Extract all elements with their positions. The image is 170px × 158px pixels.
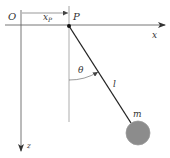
xp-label-sub: P: [47, 16, 53, 23]
z-axis-label: z: [26, 142, 31, 150]
pivot-label: P: [72, 11, 80, 22]
theta-arc: [69, 72, 98, 80]
mass-label: m: [133, 109, 142, 119]
length-label: l: [113, 79, 116, 89]
x-axis-label: x: [152, 30, 157, 40]
xp-label: xP: [43, 12, 53, 23]
origin-label: O: [8, 11, 16, 22]
pendulum-diagram: O xP P x z θ l m: [0, 0, 170, 158]
angle-label: θ: [78, 65, 84, 75]
pivot-point: [67, 24, 71, 28]
pendulum-bob: [126, 121, 150, 145]
